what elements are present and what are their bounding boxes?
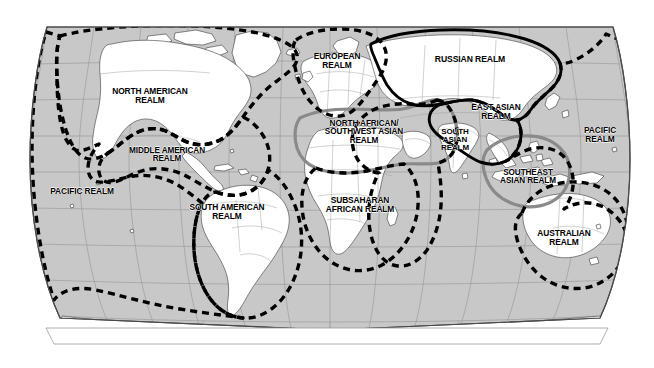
map-baseplate: [46, 328, 608, 344]
world-realms-map: NORTH AMERICAN REALM MIDDLE AMERICAN REA…: [0, 0, 654, 368]
world-map-graphic: [0, 0, 654, 368]
